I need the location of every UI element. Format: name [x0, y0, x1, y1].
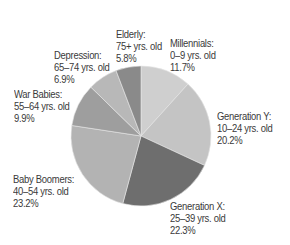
label-pct: 5.8%: [116, 52, 162, 64]
label-depression: Depression: 65–74 yrs. old 6.9%: [54, 49, 110, 85]
label-title: Generation Y:: [217, 110, 273, 122]
label-pct: 6.9%: [54, 73, 110, 85]
label-pct: 22.3%: [170, 224, 226, 236]
label-pct: 11.7%: [170, 61, 216, 73]
label-title: Millennials:: [170, 37, 216, 49]
label-pct: 20.2%: [217, 134, 273, 146]
label-title: Elderly:: [116, 28, 162, 40]
label-range: 40–54 yrs. old: [13, 185, 74, 197]
label-range: 75+ yrs. old: [116, 40, 162, 52]
label-elderly: Elderly: 75+ yrs. old 5.8%: [116, 28, 162, 64]
label-pct: 9.9%: [14, 112, 70, 124]
label-range: 55–64 yrs. old: [14, 100, 70, 112]
label-range: 0–9 yrs. old: [170, 49, 216, 61]
label-war-babies: War Babies: 55–64 yrs. old 9.9%: [14, 88, 70, 124]
label-title: War Babies:: [14, 88, 70, 100]
label-title: Baby Boomers:: [13, 173, 74, 185]
label-generation-x: Generation X: 25–39 yrs. old 22.3%: [170, 200, 226, 236]
label-baby-boomers: Baby Boomers: 40–54 yrs. old 23.2%: [13, 173, 74, 209]
label-range: 25–39 yrs. old: [170, 212, 226, 224]
label-title: Depression:: [54, 49, 110, 61]
label-millennials: Millennials: 0–9 yrs. old 11.7%: [170, 37, 216, 73]
label-title: Generation X:: [170, 200, 226, 212]
label-pct: 23.2%: [13, 197, 74, 209]
label-range: 10–24 yrs. old: [217, 122, 273, 134]
label-range: 65–74 yrs. old: [54, 61, 110, 73]
label-generation-y: Generation Y: 10–24 yrs. old 20.2%: [217, 110, 273, 146]
